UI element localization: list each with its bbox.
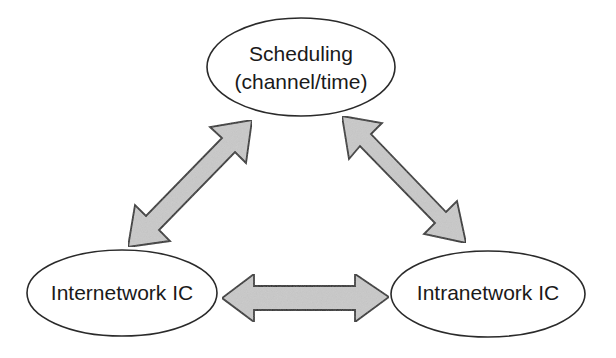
node-scheduling-label-line2: (channel/time) (234, 70, 367, 93)
node-internetwork: Internetwork IC (27, 250, 217, 336)
node-intranetwork: Intranetwork IC (391, 251, 585, 337)
node-scheduling-ellipse (207, 18, 395, 116)
node-scheduling: Scheduling (channel/time) (207, 18, 395, 116)
node-internetwork-label: Internetwork IC (51, 281, 193, 304)
arrow-scheduling-internetwork (128, 120, 252, 247)
node-scheduling-label-line1: Scheduling (249, 42, 353, 65)
arrow-scheduling-intranetwork (342, 116, 466, 243)
arrow-internetwork-intranetwork (222, 274, 389, 322)
diagram-canvas: Scheduling (channel/time) Internetwork I… (0, 0, 616, 358)
node-intranetwork-label: Intranetwork IC (417, 281, 559, 304)
